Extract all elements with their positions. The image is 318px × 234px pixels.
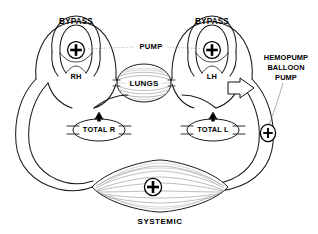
hemopump-label-line2: BALLOON: [267, 63, 304, 72]
hemopump-label-line1: HEMOPUMP: [264, 53, 308, 62]
total-right-node: TOTAL R: [67, 112, 131, 141]
hemopump-label-line3: PUMP: [275, 73, 297, 82]
lungs-label: LUNGS: [130, 79, 159, 88]
total-left-node: TOTAL L: [181, 112, 245, 141]
pump-symbol-left: [68, 42, 85, 59]
bypass-left-label: BYPASS: [59, 17, 93, 26]
circulation-diagram: BYPASS BYPASS: [0, 0, 318, 234]
pump-symbol-inline-right: [260, 124, 275, 141]
total-left-label: TOTAL L: [197, 125, 229, 134]
lungs-organ: LUNGS: [113, 64, 175, 102]
right-heart-label: RH: [70, 72, 81, 81]
hemopump-device-arrow: [228, 78, 254, 98]
total-right-label: TOTAL R: [83, 125, 116, 134]
bypass-right-label: BYPASS: [195, 17, 229, 26]
pump-leader-group: PUMP: [83, 41, 209, 52]
systemic-organ: SYSTEMIC: [92, 160, 228, 226]
circulation-diagram-canvas: BYPASS BYPASS: [0, 0, 318, 234]
left-heart-label: LH: [207, 72, 217, 81]
pump-symbol-systemic: [144, 178, 161, 195]
pump-symbol-right: [204, 42, 221, 59]
pump-label: PUMP: [139, 42, 162, 51]
systemic-label: SYSTEMIC: [138, 217, 183, 226]
